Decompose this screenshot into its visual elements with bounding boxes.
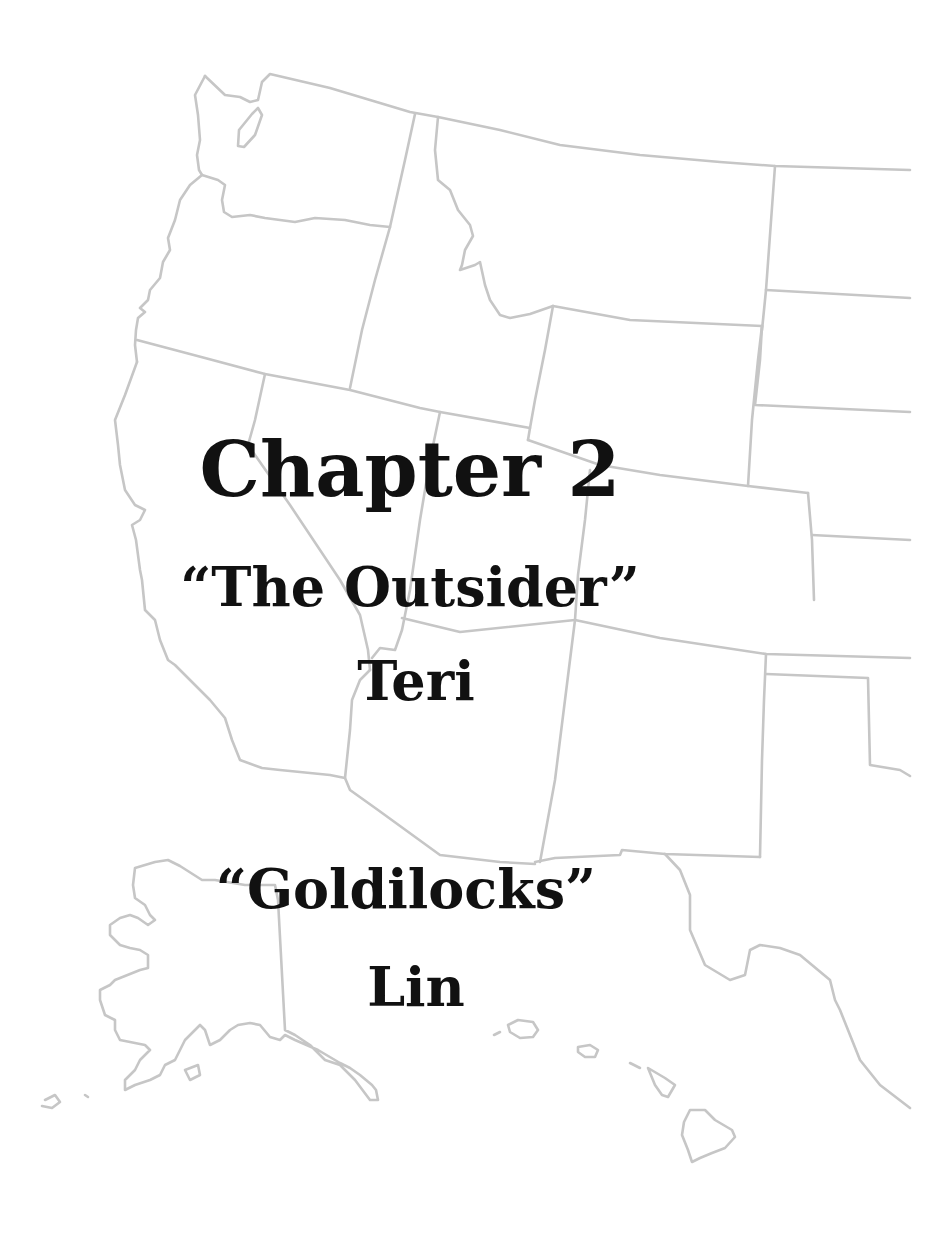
story-author-2: Lin [367,960,465,1014]
story-title-2: “Goldilocks” [216,862,596,916]
chapter-title-block: Chapter 2 “The Outsider” Teri “Goldilock… [0,0,946,1234]
story-author-1: Teri [357,654,474,708]
story-title-1: “The Outsider” [180,560,639,614]
chapter-heading: Chapter 2 [200,432,621,508]
